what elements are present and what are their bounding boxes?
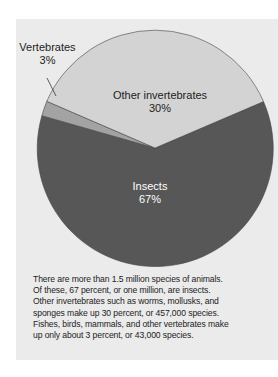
insects-name: Insects <box>118 180 182 193</box>
caption-line: Fishes, birds, mammals, and other verteb… <box>33 319 263 330</box>
insects-pct: 67% <box>118 193 182 206</box>
label-other-invertebrates: Other invertebrates 30% <box>100 89 220 115</box>
label-insects: Insects 67% <box>118 180 182 206</box>
caption-line: sponges make up 30 percent, or 457,000 s… <box>33 308 263 319</box>
other-name: Other invertebrates <box>100 89 220 102</box>
caption: There are more than 1.5 million species … <box>33 274 263 341</box>
caption-line: Other invertebrates such as worms, mollu… <box>33 296 263 307</box>
label-vertebrates: Vertebrates 3% <box>10 41 85 67</box>
caption-line: up only about 3 percent, or 43,000 speci… <box>33 330 263 341</box>
caption-line: There are more than 1.5 million species … <box>33 274 263 285</box>
caption-line: Of these, 67 percent, or one million, ar… <box>33 285 263 296</box>
vertebrates-pct: 3% <box>10 54 85 67</box>
vertebrates-name: Vertebrates <box>10 41 85 54</box>
other-pct: 30% <box>100 102 220 115</box>
